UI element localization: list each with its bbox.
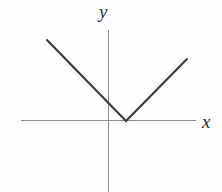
y-axis-label: y	[99, 2, 107, 21]
figure-canvas: y x	[0, 0, 222, 192]
x-axis-label: x	[202, 112, 210, 131]
v-shape-curve	[47, 40, 187, 121]
graph-plot-area	[0, 0, 222, 192]
